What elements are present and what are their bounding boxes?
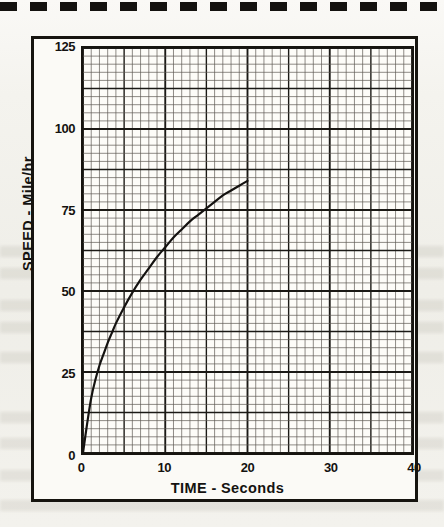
plot-area [81, 46, 414, 455]
x-axis-title: TIME - Seconds [34, 480, 421, 496]
x-axis-tick-3: 30 [324, 460, 337, 475]
page-background: 0255075100125 010203040 SPEED - Mile/hr … [0, 0, 444, 527]
speed-curve-path [83, 181, 248, 453]
y-axis-tick-1: 25 [34, 366, 75, 381]
x-axis-tick-2: 20 [241, 460, 254, 475]
top-dashed-rule [0, 2, 444, 11]
y-axis-tick-0: 0 [34, 448, 75, 463]
y-axis-title: SPEED - Mile/hr [20, 156, 36, 271]
y-axis-tick-3: 75 [34, 202, 75, 217]
x-axis-tick-4: 40 [407, 460, 420, 475]
y-axis-tick-5: 125 [34, 39, 75, 54]
x-axis-tick-0: 0 [78, 460, 85, 475]
y-axis-tick-4: 100 [34, 120, 75, 135]
figure-frame: 0255075100125 010203040 SPEED - Mile/hr … [31, 36, 418, 502]
x-axis-tick-1: 10 [158, 460, 171, 475]
y-axis-tick-2: 50 [34, 284, 75, 299]
speed-curve [83, 48, 412, 453]
